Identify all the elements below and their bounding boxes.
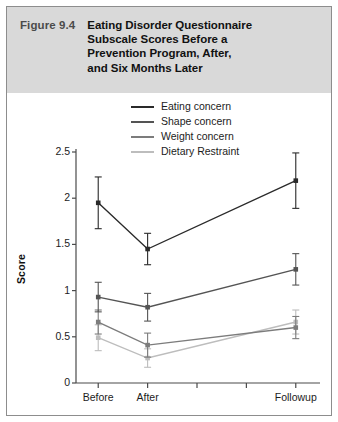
y-tick-label: 0.5 bbox=[22, 330, 70, 342]
x-tick-label: After bbox=[124, 391, 172, 403]
series-line bbox=[98, 269, 296, 307]
y-tick-label: 2 bbox=[22, 191, 70, 203]
data-point-marker bbox=[145, 247, 150, 252]
data-point-marker bbox=[96, 201, 101, 206]
series-line bbox=[98, 322, 296, 358]
data-point-marker bbox=[96, 320, 101, 325]
data-point-marker bbox=[145, 343, 150, 348]
y-tick-label: 1.5 bbox=[22, 237, 70, 249]
y-tick-label: 2.5 bbox=[22, 145, 70, 157]
series-group-2 bbox=[95, 310, 300, 357]
x-tick-label: Followup bbox=[272, 391, 320, 403]
series-line bbox=[98, 322, 296, 345]
x-tick-label: Before bbox=[74, 391, 122, 403]
data-point-marker bbox=[293, 267, 298, 272]
data-point-marker bbox=[96, 335, 101, 340]
figure-container: Figure 9.4 Eating Disorder Questionnaire… bbox=[0, 0, 338, 422]
data-point-marker bbox=[145, 305, 150, 310]
data-point-marker bbox=[96, 295, 101, 300]
data-point-marker bbox=[293, 325, 298, 330]
y-tick-label: 1 bbox=[22, 284, 70, 296]
data-point-marker bbox=[293, 178, 298, 183]
series-group-0 bbox=[95, 153, 300, 265]
series-line bbox=[98, 181, 296, 249]
y-tick-label: 0 bbox=[22, 376, 70, 388]
chart-plot-svg bbox=[0, 0, 338, 422]
plot-area: Score 00.511.522.5BeforeAfterFollowup bbox=[0, 0, 338, 422]
series-group-1 bbox=[95, 254, 300, 321]
